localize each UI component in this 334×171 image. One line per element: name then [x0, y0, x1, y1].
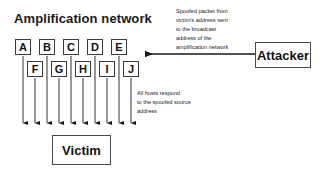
host-node-e[interactable]: E	[111, 39, 127, 55]
host-node-f[interactable]: F	[27, 61, 43, 77]
host-node-i[interactable]: I	[99, 61, 115, 77]
host-node-b[interactable]: B	[39, 39, 55, 55]
host-node-g[interactable]: G	[51, 61, 67, 77]
victim-node[interactable]: Victim	[52, 135, 111, 165]
host-node-h[interactable]: H	[75, 61, 91, 77]
diagram-canvas: Amplification network ABCDE FGHIJ Attack…	[0, 0, 334, 171]
host-node-d[interactable]: D	[87, 39, 103, 55]
page-title: Amplification network	[14, 11, 152, 26]
host-node-a[interactable]: A	[15, 39, 31, 55]
annotation-spoofed-packet: Spoofed packet from victim's address sen…	[176, 7, 262, 52]
host-node-c[interactable]: C	[63, 39, 79, 55]
host-node-j[interactable]: J	[123, 61, 139, 77]
annotation-hosts-respond: All hosts respond to the spoofed source …	[137, 89, 221, 116]
attacker-node[interactable]: Attacker	[255, 42, 311, 68]
